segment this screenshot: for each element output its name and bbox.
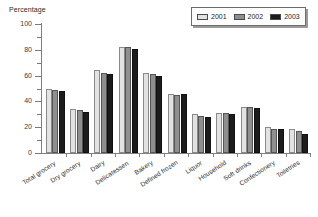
bar-2001-soft-drinks [241, 107, 247, 153]
bar-2002-confectionery [271, 129, 277, 154]
x-axis-labels: Total groceryDry groceryDairyDelicatesse… [0, 155, 318, 217]
y-tick-label-100: 100 [2, 20, 32, 27]
bar-2003-confectionery [278, 129, 284, 154]
y-tick-0 [35, 153, 41, 154]
bar-group [216, 24, 235, 153]
x-label-toiletries: Toiletries [275, 159, 301, 179]
y-tick-minor-50 [37, 89, 41, 90]
bar-group [289, 24, 308, 153]
bar-2002-defined-frozen [174, 95, 180, 153]
bar-2003-bakery [156, 76, 162, 153]
bar-2001-confectionery [265, 127, 271, 153]
y-tick-label-20: 20 [2, 123, 32, 130]
bar-2002-household [223, 113, 229, 153]
bar-2001-liquor [192, 114, 198, 153]
bar-2003-defined-frozen [181, 94, 187, 153]
bar-group [46, 24, 65, 153]
bar-2003-total-grocery [59, 91, 65, 153]
bar-2002-dairy [101, 73, 107, 153]
bar-2001-toiletries [289, 129, 295, 154]
y-tick-80 [35, 50, 41, 51]
plot-area [42, 24, 310, 153]
bar-2003-liquor [205, 117, 211, 153]
bar-2002-bakery [150, 74, 156, 153]
bar-group [70, 24, 89, 153]
bar-group [119, 24, 138, 153]
bar-group [168, 24, 187, 153]
y-tick-label-60: 60 [2, 72, 32, 79]
y-tick-minor-70 [37, 63, 41, 64]
bar-2002-toiletries [296, 131, 302, 153]
y-tick-label-80: 80 [2, 46, 32, 53]
bar-2003-delicatessen [132, 49, 138, 153]
bar-chart: Percentage 020406080100 Total groceryDry… [0, 0, 318, 217]
bar-group [94, 24, 113, 153]
legend-label-2002: 2002 [248, 13, 264, 20]
bar-2001-bakery [143, 73, 149, 153]
y-tick-label-40: 40 [2, 97, 32, 104]
bar-2003-household [229, 114, 235, 153]
bar-group [241, 24, 260, 153]
y-tick-60 [35, 76, 41, 77]
y-tick-40 [35, 101, 41, 102]
legend-item-2003[interactable]: 2003 [270, 13, 300, 20]
legend-swatch-2001 [197, 14, 208, 20]
y-tick-20 [35, 127, 41, 128]
bar-2001-dry-grocery [70, 109, 76, 153]
bar-2002-delicatessen [125, 47, 131, 153]
legend-item-2002[interactable]: 2002 [234, 13, 264, 20]
bar-2001-total-grocery [46, 89, 52, 154]
bar-group [265, 24, 284, 153]
y-tick-minor-30 [37, 114, 41, 115]
bar-2002-soft-drinks [247, 107, 253, 153]
bar-2001-delicatessen [119, 47, 125, 153]
bar-2003-dry-grocery [83, 112, 89, 153]
legend-label-2001: 2001 [211, 13, 227, 20]
y-tick-minor-10 [37, 140, 41, 141]
bar-2002-liquor [198, 116, 204, 153]
legend-item-2001[interactable]: 2001 [197, 13, 227, 20]
bar-2001-defined-frozen [168, 94, 174, 153]
legend-swatch-2003 [270, 14, 281, 20]
bar-2003-toiletries [302, 134, 308, 153]
y-axis-title: Percentage [9, 6, 46, 13]
bar-group [143, 24, 162, 153]
bar-2001-dairy [94, 70, 100, 153]
legend-label-2003: 2003 [284, 13, 300, 20]
chart-legend[interactable]: 200120022003 [191, 7, 306, 26]
bar-2001-household [216, 113, 222, 153]
bar-2002-total-grocery [52, 90, 58, 153]
bar-2002-dry-grocery [77, 110, 83, 153]
y-tick-minor-90 [37, 37, 41, 38]
bar-group [192, 24, 211, 153]
x-axis-line [41, 153, 311, 154]
y-tick-100 [35, 24, 41, 25]
legend-swatch-2002 [234, 14, 245, 20]
bar-2003-dairy [107, 74, 113, 153]
bar-2003-soft-drinks [254, 108, 260, 153]
x-label-dairy: Dairy [89, 159, 106, 173]
